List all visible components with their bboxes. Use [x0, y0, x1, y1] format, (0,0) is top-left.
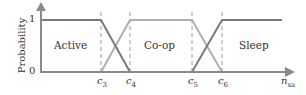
y-axis-label: Probability — [16, 18, 27, 74]
region-label-coop: Co-op — [144, 39, 175, 51]
x-tick-c5: c5 — [188, 75, 198, 89]
y-tick-0: 0 — [29, 65, 35, 76]
region-label-active: Active — [54, 39, 87, 51]
x-tick-c4: c4 — [126, 75, 136, 89]
region-label-sleep: Sleep — [239, 39, 269, 51]
y-tick-1: 1 — [29, 13, 35, 24]
x-tick-c6: c6 — [218, 75, 228, 89]
x-axis-label: nsa — [281, 75, 295, 89]
x-tick-c3: c3 — [97, 75, 107, 89]
y-axis-arrow-icon — [36, 2, 46, 11]
